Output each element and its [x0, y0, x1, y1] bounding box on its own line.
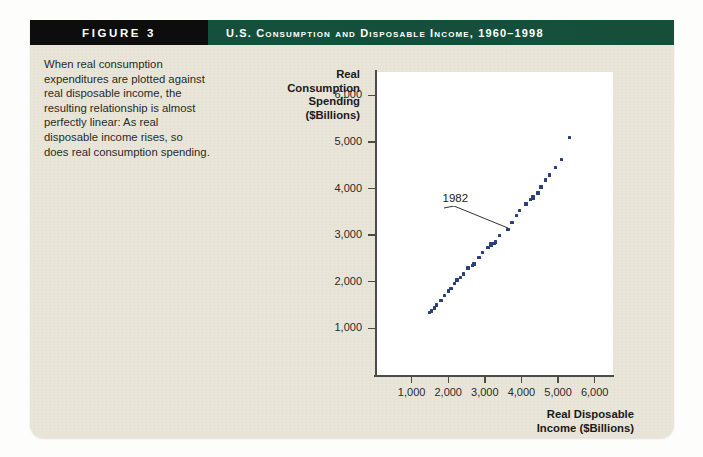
scatter-point [536, 191, 539, 194]
y-tick-mark [368, 95, 375, 96]
scatter-point [524, 202, 527, 205]
y-tick-mark [368, 188, 375, 189]
scatter-point [518, 209, 521, 212]
scatter-point [481, 251, 484, 254]
scatter-point [455, 278, 458, 281]
x-tick-mark [557, 376, 558, 383]
annotation-1982-label: 1982 [443, 192, 469, 204]
scatter-point [539, 185, 542, 188]
scatter-point [439, 299, 442, 302]
plot-area [375, 72, 613, 375]
scatter-point [435, 303, 438, 306]
scatter-point [430, 309, 433, 312]
y-tick-mark [368, 234, 375, 235]
y-tick-label: 6,000 [306, 88, 362, 100]
y-tick-label: 5,000 [306, 135, 362, 147]
y-tick-mark [368, 281, 375, 282]
scatter-point [532, 196, 535, 199]
scatter-point [477, 256, 480, 259]
scatter-point [510, 221, 513, 224]
y-tick-mark [368, 141, 375, 142]
y-tick-label: 4,000 [306, 182, 362, 194]
figure-title: U.S. Consumption and Disposable Income, … [208, 20, 674, 45]
scatter-point [515, 214, 518, 217]
scatter-point [466, 266, 469, 269]
x-tick-mark [448, 376, 449, 383]
x-tick-mark [594, 376, 595, 383]
y-tick-label: 1,000 [306, 321, 362, 333]
x-tick-label: 6,000 [571, 386, 619, 398]
x-tick-mark [521, 376, 522, 383]
page-background: FIGURE 3 U.S. Consumption and Disposable… [0, 0, 703, 457]
y-tick-label: 2,000 [306, 275, 362, 287]
x-tick-mark [411, 376, 412, 383]
scatter-point [453, 282, 456, 285]
y-tick-mark [368, 328, 375, 329]
y-axis-line [375, 70, 377, 376]
scatter-point [506, 228, 509, 231]
scatter-point [443, 294, 446, 297]
figure-header-bar: FIGURE 3 U.S. Consumption and Disposable… [30, 20, 674, 45]
scatter-point [554, 166, 557, 169]
figure-number-label: FIGURE 3 [30, 20, 208, 45]
x-axis-title: Real DisposableIncome ($Billions) [434, 408, 634, 435]
scatter-point [544, 178, 547, 181]
scatter-point [548, 173, 551, 176]
figure-title-text: U.S. Consumption and Disposable Income, … [226, 27, 544, 39]
scatter-point [494, 240, 497, 243]
x-tick-mark [484, 376, 485, 383]
scatter-point [462, 272, 465, 275]
scatter-point [473, 262, 476, 265]
y-tick-label: 3,000 [306, 228, 362, 240]
figure-panel: FIGURE 3 U.S. Consumption and Disposable… [30, 20, 674, 438]
chart: RealConsumptionSpending($Billions) Real … [30, 20, 674, 438]
scatter-point [498, 234, 501, 237]
scatter-point [449, 287, 452, 290]
